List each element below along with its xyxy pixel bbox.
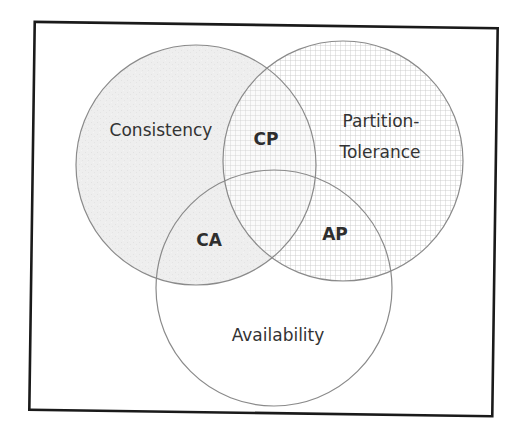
consistency-label: Consistency (110, 120, 213, 140)
ap-label: AP (322, 224, 348, 244)
cp-label: CP (254, 129, 279, 149)
partition-label-line2: Tolerance (338, 142, 420, 162)
availability-label: Availability (232, 325, 325, 345)
ca-label: CA (196, 230, 222, 250)
cap-venn-diagram: Consistency Partition- Tolerance Availab… (0, 0, 522, 439)
partition-label-line1: Partition- (343, 111, 420, 131)
